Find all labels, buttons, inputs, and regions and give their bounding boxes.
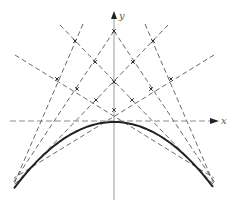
intersection-mark-icon: [169, 77, 173, 81]
tangent-line: [145, 24, 214, 184]
parabola-envelope-diagram: y x: [0, 0, 231, 210]
tangent-line: [14, 24, 83, 184]
intersection-mark-icon: [55, 77, 59, 81]
intersection-mark-icon: [130, 98, 134, 102]
x-axis-label: x: [221, 115, 227, 126]
y-axis-label: y: [118, 10, 125, 21]
intersection-mark-icon: [149, 87, 153, 91]
y-axis-arrow-icon: [111, 11, 117, 19]
intersection-mark-icon: [75, 87, 79, 91]
intersection-mark-icon: [94, 98, 98, 102]
x-axis-arrow-icon: [210, 118, 219, 124]
